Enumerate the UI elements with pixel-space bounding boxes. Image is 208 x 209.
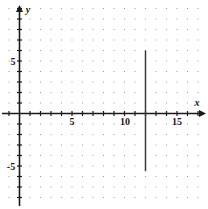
grid-dot — [135, 29, 136, 30]
grid-dot — [103, 92, 104, 93]
y-tick-label-negative-5: -5 — [7, 161, 15, 172]
grid-dot — [177, 134, 178, 135]
grid-dot — [72, 176, 73, 177]
grid-dot — [93, 92, 94, 93]
grid-dot — [124, 103, 125, 104]
grid-dot — [198, 166, 199, 167]
axes-layer — [2, 5, 206, 206]
x-tick-label-15: 15 — [172, 116, 182, 127]
grid-dot — [30, 176, 31, 177]
grid-dot — [198, 187, 199, 188]
grid-dot — [61, 187, 62, 188]
grid-dot — [156, 176, 157, 177]
grid-dot — [40, 40, 41, 41]
grid-dot — [114, 176, 115, 177]
grid-dot — [166, 155, 167, 156]
grid-dot — [124, 19, 125, 20]
grid-dot — [82, 187, 83, 188]
grid-dot — [93, 124, 94, 125]
graph-canvas: 5 10 15 5 -5 x y — [0, 0, 208, 209]
grid-dot — [40, 134, 41, 135]
grid-dot — [30, 40, 31, 41]
grid-dot — [40, 103, 41, 104]
grid-dot — [135, 40, 136, 41]
grid-dot — [40, 19, 41, 20]
grid-dot — [51, 197, 52, 198]
grid-dot — [93, 166, 94, 167]
grid-dot — [30, 19, 31, 20]
grid-dot — [187, 40, 188, 41]
grid-dot — [103, 19, 104, 20]
grid-dot — [61, 61, 62, 62]
y-tick-label-5: 5 — [11, 56, 16, 67]
grid-dot — [124, 82, 125, 83]
grid-dot — [51, 145, 52, 146]
grid-dot-layer — [9, 8, 199, 198]
grid-dot — [166, 50, 167, 51]
grid-dot — [156, 71, 157, 72]
grid-dot — [103, 187, 104, 188]
grid-dot — [103, 82, 104, 83]
grid-dot — [114, 197, 115, 198]
grid-dot — [40, 50, 41, 51]
grid-dot — [103, 166, 104, 167]
grid-dot — [30, 197, 31, 198]
grid-dot — [51, 92, 52, 93]
grid-dot — [145, 176, 146, 177]
grid-dot — [51, 82, 52, 83]
grid-dot — [40, 176, 41, 177]
grid-dot — [72, 50, 73, 51]
grid-dot — [61, 19, 62, 20]
grid-dot — [198, 8, 199, 9]
grid-dot — [156, 134, 157, 135]
grid-dot — [177, 197, 178, 198]
grid-dot — [124, 155, 125, 156]
grid-dot — [187, 61, 188, 62]
grid-dot — [72, 155, 73, 156]
grid-dot — [82, 40, 83, 41]
grid-dot — [72, 134, 73, 135]
grid-dot — [124, 8, 125, 9]
grid-dot — [124, 187, 125, 188]
grid-dot — [156, 103, 157, 104]
grid-dot — [72, 145, 73, 146]
x-tick-label-5: 5 — [70, 116, 75, 127]
grid-dot — [135, 71, 136, 72]
grid-dot — [177, 176, 178, 177]
grid-dot — [124, 50, 125, 51]
grid-dot — [166, 145, 167, 146]
grid-dot — [82, 124, 83, 125]
grid-dot — [124, 40, 125, 41]
grid-dot — [61, 29, 62, 30]
grid-dot — [103, 71, 104, 72]
grid-dot — [166, 124, 167, 125]
grid-dot — [51, 71, 52, 72]
grid-dot — [177, 29, 178, 30]
grid-dot — [187, 92, 188, 93]
grid-dot — [72, 82, 73, 83]
grid-dot — [72, 187, 73, 188]
grid-dot — [114, 40, 115, 41]
grid-dot — [72, 71, 73, 72]
grid-dot — [135, 50, 136, 51]
grid-dot — [51, 8, 52, 9]
grid-dot — [61, 134, 62, 135]
grid-dot — [114, 71, 115, 72]
grid-dot — [166, 61, 167, 62]
grid-dot — [40, 197, 41, 198]
grid-dot — [51, 187, 52, 188]
grid-dot — [114, 145, 115, 146]
grid-dot — [30, 187, 31, 188]
grid-dot — [103, 61, 104, 62]
grid-dot — [124, 92, 125, 93]
grid-dot — [187, 103, 188, 104]
grid-dot — [82, 155, 83, 156]
y-axis-label: y — [25, 4, 31, 15]
grid-dot — [177, 50, 178, 51]
grid-dot — [72, 166, 73, 167]
grid-dot — [93, 29, 94, 30]
grid-dot — [114, 29, 115, 30]
coordinate-plane-figure: 5 10 15 5 -5 x y — [0, 0, 208, 209]
x-axis-arrowhead — [199, 110, 206, 117]
grid-dot — [30, 124, 31, 125]
